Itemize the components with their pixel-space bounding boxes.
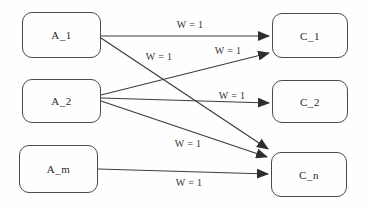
diagram-canvas: A_1A_2A_mC_1C_2C_n W = 1W = 1W = 1W = 1W… (0, 0, 368, 209)
node-c-2: C_2 (272, 80, 348, 123)
node-a-m: A_m (19, 145, 98, 193)
node-label: A_1 (51, 29, 71, 41)
node-label: C_1 (300, 30, 320, 42)
node-label: C_n (299, 169, 319, 181)
edge-weight-label: W = 1 (215, 46, 241, 56)
edge-arrow-a-2-to-c-1 (101, 53, 269, 95)
edge-weight-label: W = 1 (219, 91, 245, 101)
edge-weight-label: W = 1 (175, 139, 201, 149)
node-label: A_m (47, 163, 71, 175)
node-label: C_2 (300, 96, 320, 108)
edge-weight-label: W = 1 (176, 178, 202, 188)
node-c-n: C_n (271, 152, 347, 197)
node-a-2: A_2 (22, 79, 101, 123)
edge-weight-label: W = 1 (146, 52, 172, 62)
node-label: A_2 (51, 95, 71, 107)
node-c-1: C_1 (272, 13, 348, 58)
edge-weight-label: W = 1 (177, 20, 203, 30)
node-a-1: A_1 (22, 12, 101, 58)
edge-arrow-a-m-to-c-n (98, 169, 268, 174)
